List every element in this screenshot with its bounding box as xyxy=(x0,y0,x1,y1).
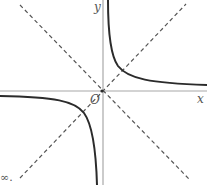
origin-point xyxy=(100,89,103,92)
x-axis-label: x xyxy=(197,92,204,106)
y-axis-label: y xyxy=(93,0,101,14)
cropped-text-fragment: ∞. xyxy=(0,171,13,184)
line-y-equals-minus-x xyxy=(20,5,189,179)
hyperbola-branch-upper xyxy=(108,0,207,85)
hyperbola-branch-lower xyxy=(0,96,97,185)
origin-label: O xyxy=(90,93,100,107)
diagram-canvas: y x O ∞. xyxy=(0,0,207,185)
